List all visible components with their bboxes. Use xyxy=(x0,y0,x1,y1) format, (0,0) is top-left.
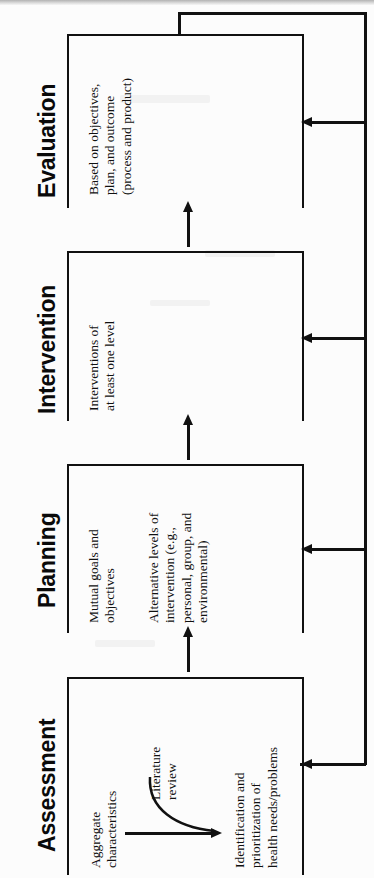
evaluation-item-0: Based on objectives, plan, and outcome (… xyxy=(86,78,135,195)
diagram-canvas: Evaluation Based on objectives, plan, an… xyxy=(0,0,374,878)
assessment-item-0: Aggregate characteristics xyxy=(88,791,121,868)
arrowhead-icon xyxy=(183,626,193,637)
arrowhead-icon xyxy=(183,201,193,212)
stage-heading-intervention: Intervention xyxy=(34,285,61,414)
feedback-arrow-evaluation xyxy=(311,121,366,124)
arrowhead-icon xyxy=(301,544,312,554)
stage-heading-assessment: Assessment xyxy=(34,718,61,852)
intervention-item-0: Interventions of at least one level xyxy=(86,321,119,411)
stage-heading-evaluation: Evaluation xyxy=(34,84,61,198)
scan-edge-band xyxy=(0,0,374,5)
feedback-arrow-assessment xyxy=(311,763,366,766)
feedback-top-stub xyxy=(178,12,181,36)
feedback-arrow-intervention xyxy=(311,337,366,340)
connector-planning-to-intervention xyxy=(187,423,190,460)
arrowhead-icon xyxy=(301,333,312,343)
literature-review-curved-arrow xyxy=(140,775,230,845)
feedback-arrow-planning xyxy=(311,548,366,551)
planning-item-1: Alternative levels of intervention (e.g.… xyxy=(146,513,212,623)
arrowhead-icon xyxy=(301,117,312,127)
feedback-trunk-segment xyxy=(364,12,367,765)
scan-artifact xyxy=(95,640,155,647)
connector-assessment-to-planning xyxy=(187,635,190,672)
connector-intervention-to-evaluation xyxy=(187,210,190,247)
stage-heading-planning: Planning xyxy=(34,512,61,608)
arrowhead-icon xyxy=(301,759,312,769)
feedback-top-segment xyxy=(178,12,367,15)
arrowhead-icon xyxy=(183,414,193,425)
planning-item-0: Mutual goals and objectives xyxy=(86,529,119,623)
assessment-item-2: Identification and prioritization of hea… xyxy=(232,747,281,868)
